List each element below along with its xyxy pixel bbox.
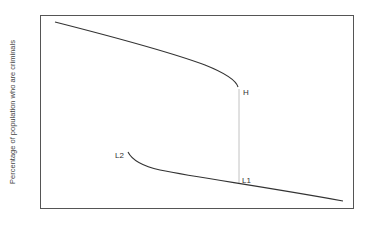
label-l2: L2 xyxy=(115,151,124,160)
plot-frame xyxy=(41,16,354,209)
label-l1: L1 xyxy=(242,176,251,185)
chart-canvas: Percentage of population who are crimina… xyxy=(0,0,367,231)
y-axis-label: Percentage of population who are crimina… xyxy=(8,40,17,184)
lower-branch-curve xyxy=(128,152,343,201)
label-h: H xyxy=(243,88,249,97)
upper-branch-curve xyxy=(55,22,238,87)
